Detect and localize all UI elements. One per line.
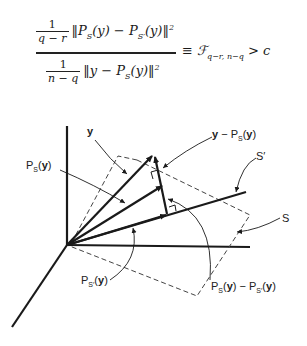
label-diff: PS(y) − PS′(y): [211, 280, 276, 294]
label-y-minus-ps: y − PS(y): [212, 128, 256, 142]
leader-lines: [60, 137, 280, 280]
label-ps: PS(y): [26, 159, 51, 173]
label-psp: PS′(y): [81, 274, 108, 288]
label-s: S: [282, 212, 289, 224]
leader-diff: [168, 199, 210, 280]
horizontal-axis: [67, 245, 250, 247]
leader-y-minus-ps: [163, 137, 212, 168]
leader-s-prime: [236, 158, 256, 192]
depth-axis: [12, 245, 67, 327]
vector-residual: [155, 157, 167, 214]
leader-psp: [110, 228, 134, 280]
label-s-prime: S′: [256, 150, 265, 162]
label-y: y: [87, 125, 93, 137]
leader-ps: [60, 170, 125, 203]
vectors: [67, 156, 246, 245]
